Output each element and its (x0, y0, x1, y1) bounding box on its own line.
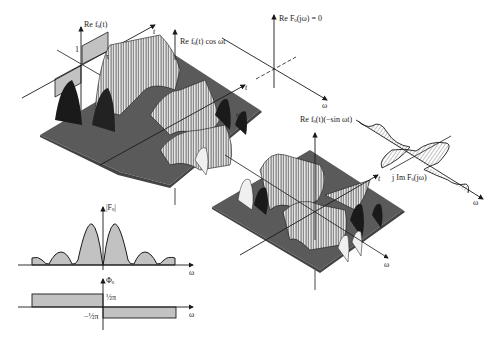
im-omega-label: ω (473, 198, 478, 207)
sin-surface-panel (212, 133, 405, 290)
magnitude-ylabel: |Fₒ| (106, 203, 116, 212)
magnitude-curve (32, 224, 175, 265)
re-t-axis (256, 57, 296, 79)
amplitude-label: 1 (75, 45, 79, 54)
sin-t-label: t (378, 174, 380, 183)
im-spectrum-ylabel: j Im Fₒ(jω) (392, 173, 427, 182)
cos-t-label: t (245, 83, 247, 92)
magnitude-xlabel: ω (189, 268, 194, 277)
cos-omega-label: ω (236, 110, 241, 119)
cos-surface-ylabel: Re fₒ(t) cos ωt (180, 37, 226, 46)
phase-xlabel: ω (189, 310, 194, 319)
tau-label: τ (106, 52, 109, 61)
time-signal-ylabel: Re fₒ(t) (84, 20, 107, 29)
phase-upper-label: ½π (106, 293, 116, 302)
re-spectrum-ylabel: Re Fₒ(jω) = 0 (279, 14, 322, 23)
magnitude-panel (18, 207, 193, 270)
im-spectrum-panel (356, 120, 483, 199)
phase-positive-block (32, 294, 103, 307)
phase-lower-label: −½π (84, 312, 99, 321)
time-signal-xlabel: t (153, 27, 155, 36)
phase-negative-block (103, 307, 176, 318)
phase-panel (18, 279, 193, 330)
re-omega-label: ω (322, 101, 327, 110)
phase-ylabel: Φₒ (106, 276, 114, 285)
cos-surface-panel (40, 30, 262, 205)
sin-surface-ylabel: Re fₒ(t)(−sin ωt) (300, 115, 352, 124)
sin-omega-label: ω (384, 260, 389, 269)
im-spectrum-curve (358, 121, 469, 193)
re-spectrum-panel (222, 15, 327, 100)
